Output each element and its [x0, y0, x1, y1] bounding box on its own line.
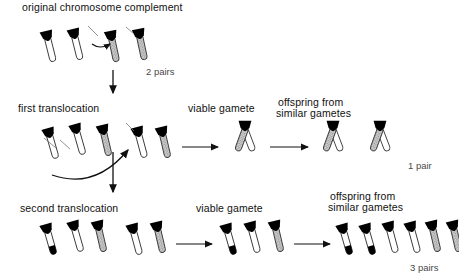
chromosome	[40, 30, 60, 63]
fusion-chromosome	[323, 121, 344, 152]
chromosome	[358, 222, 379, 256]
chromosome	[68, 122, 89, 156]
chromosome	[41, 126, 62, 160]
break-tick	[60, 140, 70, 149]
diagram-canvas: original chromosome complement 2 pairs f…	[0, 0, 459, 278]
chromosome	[268, 220, 288, 253]
exchange-arrow-row1	[92, 44, 110, 47]
fusion-chromosome	[235, 121, 256, 152]
chromosome	[403, 220, 423, 254]
chromosome	[125, 222, 145, 256]
row-first-translocation	[41, 121, 391, 192]
fusion-chromosome	[370, 121, 391, 152]
chromosome	[335, 222, 356, 256]
chromosome	[381, 220, 401, 254]
row-original-complement	[40, 26, 151, 93]
chromosome	[96, 124, 116, 157]
chromosome	[150, 221, 170, 254]
row-second-translocation	[39, 219, 459, 256]
chromosome	[219, 222, 240, 256]
chromosome	[66, 219, 87, 253]
chromosome-vector-layer	[0, 0, 459, 278]
chromosome	[132, 28, 151, 61]
chromosome	[425, 220, 445, 253]
chromosome	[243, 220, 263, 254]
chromosome	[39, 222, 60, 256]
break-tick	[88, 26, 98, 36]
chromosome	[67, 28, 87, 61]
curved-arrow-row2	[52, 150, 128, 179]
chromosome	[446, 220, 459, 253]
chromosome	[91, 220, 111, 253]
break-tick	[126, 123, 134, 131]
chromosome	[155, 126, 175, 159]
